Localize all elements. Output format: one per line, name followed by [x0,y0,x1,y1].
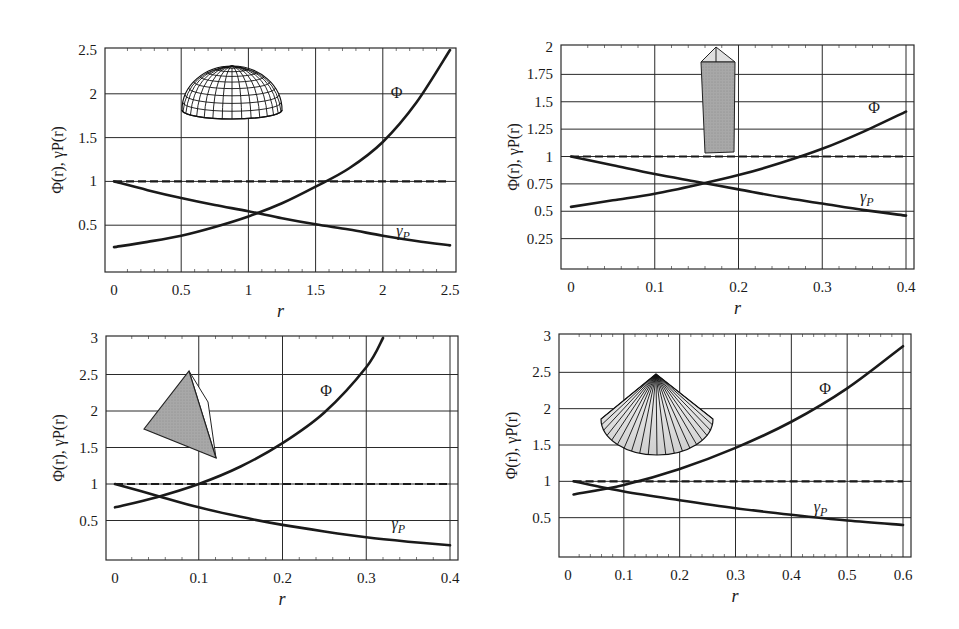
x-tick-label: 1.5 [306,282,325,298]
y-tick-label: 2 [90,86,98,102]
x-tick-label: 0.5 [172,282,191,298]
chart-panel-tetrahedron: 00.10.20.30.40.511.522.53rΦ(r), γP(r)ΦγP [50,330,460,609]
y-axis-label: Φ(r), γP(r) [49,126,67,194]
y-tick-label: 2 [544,401,552,417]
x-tick-label: 2.5 [441,282,460,298]
x-tick-label: 0.4 [782,567,801,583]
y-tick-label: 1.25 [527,121,553,137]
y-axis-label: Φ(r), γP(r) [503,412,521,480]
chart-panel-cone: 00.10.20.30.40.50.60.511.522.53rΦ(r), γP… [503,328,913,606]
tetrahedron-icon [144,371,216,458]
curve-label: γP [391,515,405,536]
y-tick-label: 0.5 [79,513,98,529]
y-tick-label: 1 [91,476,99,492]
x-tick-label: 0.6 [894,567,913,583]
x-tick-label: 0.3 [813,279,832,295]
x-tick-label: 0.3 [357,570,376,586]
y-tick-label: 2.5 [532,364,551,380]
y-tick-label: 0.5 [532,510,551,526]
y-tick-label: 1.5 [78,130,97,146]
x-axis-label: r [278,589,286,609]
y-tick-label: 1 [90,173,98,189]
x-tick-label: 0 [111,570,119,586]
x-tick-label: 0 [564,567,572,583]
x-axis-label: r [734,298,742,318]
y-tick-label: 1.5 [79,440,98,456]
curve-label: γP [814,498,828,519]
y-tick-label: 1.5 [532,437,551,453]
y-tick-label: 1 [544,473,552,489]
y-tick-label: 2.5 [79,367,98,383]
y-tick-label: 2.5 [78,42,97,58]
x-axis-label: r [731,586,739,606]
x-tick-label: 0.4 [897,279,916,295]
y-tick-label: 1.5 [534,94,553,110]
x-tick-label: 0.1 [614,567,633,583]
x-tick-label: 0.1 [189,570,208,586]
x-tick-label: 0.3 [726,567,745,583]
y-axis-label: Φ(r), γP(r) [505,123,523,191]
y-axis-label: Φ(r), γP(r) [50,414,68,482]
x-tick-label: 0.5 [838,567,857,583]
x-tick-label: 0.1 [645,279,664,295]
y-tick-label: 3 [544,328,552,344]
x-tick-label: 1 [245,282,253,298]
y-tick-label: 2 [91,403,99,419]
x-tick-label: 0 [567,279,575,295]
x-axis-label: r [277,301,285,321]
curve-label: Φ [391,84,403,101]
y-tick-label: 0.25 [527,231,553,247]
y-tick-label: 2 [546,39,554,55]
curve-label: Φ [819,380,831,397]
x-tick-label: 0.2 [273,570,292,586]
cone-icon [601,374,713,455]
curve-label: Φ [868,99,880,116]
prism-icon [701,47,735,153]
y-tick-label: 1.75 [527,66,553,82]
figure-grid: 00.511.522.50.511.522.5rΦ(r), γP(r)ΦγP 0… [0,0,959,629]
y-tick-label: 0.5 [78,217,97,233]
curve-label: γP [860,188,874,209]
y-tick-label: 3 [91,330,99,346]
x-tick-label: 0.2 [729,279,748,295]
x-tick-label: 2 [379,282,387,298]
y-tick-label: 1 [546,149,554,165]
x-tick-label: 0 [110,282,118,298]
four-panel-plot: 00.511.522.50.511.522.5rΦ(r), γP(r)ΦγP 0… [0,0,959,629]
curve-label: Φ [320,382,332,399]
x-tick-label: 0.4 [441,570,460,586]
y-tick-label: 0.75 [527,176,553,192]
series-gamma-p [574,481,903,525]
hemisphere-icon [182,66,282,119]
x-tick-label: 0.2 [670,567,689,583]
y-tick-label: 0.5 [534,203,553,219]
